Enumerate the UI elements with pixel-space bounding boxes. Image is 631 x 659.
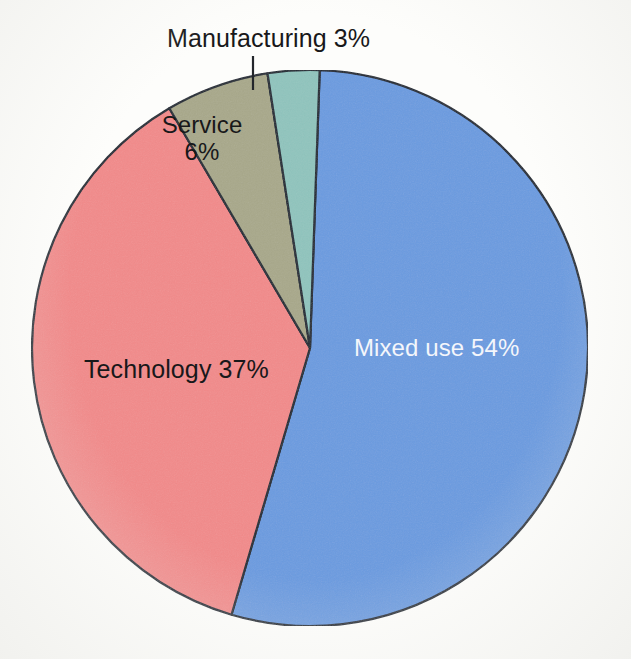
pie-label-manufacturing: Manufacturing 3% [167, 24, 370, 53]
pie-label-mixed-use: Mixed use 54% [354, 334, 519, 361]
pie-label-service: Service6% [150, 111, 254, 166]
pie-chart-figure [0, 0, 631, 659]
pie-label-technology: Technology 37% [84, 355, 269, 384]
pie-label-service-name: Service [162, 111, 243, 138]
pie-chart-page: Manufacturing 3% Service6% Technology 37… [0, 0, 631, 659]
pie-label-service-value: 6% [150, 138, 254, 165]
